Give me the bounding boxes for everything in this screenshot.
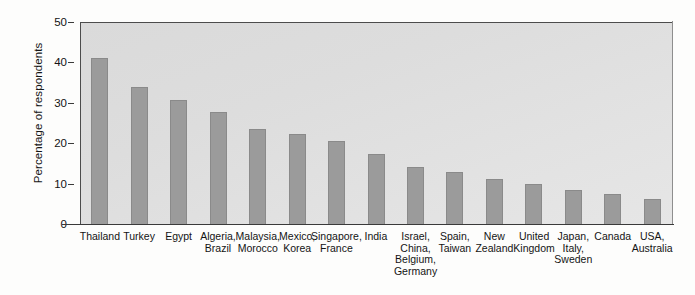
x-category-label-line: Sweden <box>554 254 592 266</box>
bar <box>289 134 306 224</box>
x-category-label-line: Zealand <box>475 243 513 255</box>
x-category-label: Israel,China,Belgium,Germany <box>394 231 437 277</box>
x-category-label: Egypt <box>165 231 192 243</box>
x-category-label-line: Malaysia, <box>236 231 280 243</box>
bar <box>249 129 266 224</box>
y-tick-mark <box>68 22 74 23</box>
x-category-label-line: Egypt <box>165 231 192 243</box>
x-category-label-line: Taiwan <box>438 243 471 255</box>
bar <box>368 154 385 224</box>
x-category-label-line: Morocco <box>236 243 280 255</box>
bar <box>446 172 463 224</box>
x-category-label: Algeria,Brazil <box>200 231 236 254</box>
x-category-label-line: Mexico, <box>279 231 315 243</box>
bar <box>131 87 148 224</box>
bar-chart-figure: Percentage of respondents 01020304050 Th… <box>0 0 695 295</box>
x-category-label: Canada <box>594 231 631 243</box>
x-category-label-line: Japan, <box>554 231 592 243</box>
bar <box>565 190 582 224</box>
bar <box>486 179 503 224</box>
x-category-label: Mexico,Korea <box>279 231 315 254</box>
x-category-label-line: Korea <box>279 243 315 255</box>
x-category-label-line: Thailand <box>80 231 120 243</box>
x-category-label-line: Algeria, <box>200 231 236 243</box>
x-category-label: Malaysia,Morocco <box>236 231 280 254</box>
x-category-label-line: New <box>475 231 513 243</box>
x-category-label-line: Israel, <box>394 231 437 243</box>
bar <box>525 184 542 224</box>
x-category-label-line: United <box>513 231 554 243</box>
bar <box>604 194 621 224</box>
bar <box>91 58 108 224</box>
x-category-label-line: Turkey <box>123 231 155 243</box>
plot-right-border <box>672 21 673 225</box>
bar-series <box>80 22 672 224</box>
x-category-label: NewZealand <box>475 231 513 254</box>
bar <box>328 141 345 224</box>
bar <box>407 167 424 224</box>
x-category-label: Japan,Italy,Sweden <box>554 231 592 266</box>
x-category-label: USA,Australia <box>632 231 673 254</box>
x-category-label-line: USA, <box>632 231 673 243</box>
x-category-label-line: Spain, <box>438 231 471 243</box>
y-tick-mark <box>68 62 74 63</box>
x-category-label-line: India <box>365 231 388 243</box>
y-tick-label: 30 <box>54 96 67 110</box>
y-axis-title: Percentage of respondents <box>30 0 46 228</box>
y-tick-label: 50 <box>54 15 67 29</box>
y-tick-label: 10 <box>54 177 67 191</box>
bar <box>210 112 227 224</box>
bar <box>644 199 661 224</box>
x-category-label-line: Brazil <box>200 243 236 255</box>
x-category-label: Singapore,France <box>311 231 362 254</box>
x-axis-line <box>62 224 674 225</box>
y-tick-mark <box>68 143 74 144</box>
y-tick-mark <box>68 103 74 104</box>
y-tick-mark <box>68 184 74 185</box>
x-axis-category-labels: ThailandTurkeyEgyptAlgeria,BrazilMalaysi… <box>80 231 680 295</box>
y-tick-label: 40 <box>54 55 67 69</box>
x-category-label-line: Canada <box>594 231 631 243</box>
x-category-label: Spain,Taiwan <box>438 231 471 254</box>
x-category-label-line: Kingdom <box>513 243 554 255</box>
bar <box>170 100 187 224</box>
x-category-label: UnitedKingdom <box>513 231 554 254</box>
x-category-label-line: Singapore, <box>311 231 362 243</box>
x-category-label-line: Germany <box>394 266 437 278</box>
y-tick-label: 20 <box>54 136 67 150</box>
x-category-label: Turkey <box>123 231 155 243</box>
y-axis-tick-labels: 01020304050 <box>46 14 74 232</box>
x-category-label: Thailand <box>80 231 120 243</box>
x-category-label-line: France <box>311 243 362 255</box>
x-category-label: India <box>365 231 388 243</box>
x-category-label-line: Australia <box>632 243 673 255</box>
